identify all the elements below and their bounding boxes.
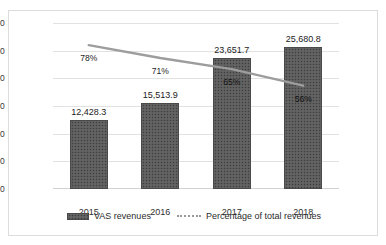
y-axis-left-tick-20000: 20,000 — [0, 73, 5, 83]
y-axis-left-tick-10000: 10,000 — [0, 129, 5, 139]
percentage-label-2017: 65% — [215, 77, 249, 87]
percentage-line-series — [53, 23, 339, 189]
legend-item-percentage-of-total-revenues[interactable]: Percentage of total revenues — [177, 211, 321, 221]
line-swatch-icon — [177, 215, 201, 217]
legend-item-vas-revenues[interactable]: VAS revenues — [67, 211, 151, 221]
bar-swatch-icon — [67, 213, 89, 220]
y-axis-left-tick-25000: 25,000 — [0, 46, 5, 56]
percentage-label-2016: 71% — [143, 66, 177, 76]
y-axis-left-tick-30000: 30,000 — [0, 18, 5, 28]
legend-label-vas-revenues: VAS revenues — [94, 211, 151, 221]
plot-area: 30,000 25,000 20,000 15,000 10,000 5000 … — [53, 23, 339, 189]
chart-legend: VAS revenues Percentage of total revenue… — [9, 211, 379, 221]
percentage-label-2018: 56% — [286, 94, 320, 104]
chart-container: 30,000 25,000 20,000 15,000 10,000 5000 … — [8, 10, 378, 236]
percentage-label-2015: 78% — [72, 53, 106, 63]
y-axis-left-tick-5000: 5000 — [0, 156, 5, 166]
legend-label-percentage-of-total-revenues: Percentage of total revenues — [206, 211, 321, 221]
y-axis-left-tick-15000: 15,000 — [0, 101, 5, 111]
y-axis-left-tick-0: 0 — [0, 184, 5, 194]
